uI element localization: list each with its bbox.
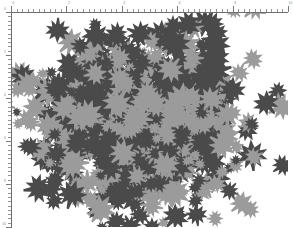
x-minor-tick [138,9,139,12]
y-minor-tick [8,16,11,17]
y-minor-tick [8,214,11,215]
y-minor-tick [8,59,11,60]
x-minor-tick [277,9,278,12]
x-minor-tick [72,9,73,12]
x-minor-tick [17,9,18,12]
x-major-tick [66,6,67,12]
y-minor-tick [8,197,11,198]
y-minor-tick [8,81,11,82]
x-minor-tick [166,9,167,12]
x-minor-tick [210,9,211,12]
y-minor-tick [8,38,11,39]
x-minor-tick [55,9,56,12]
x-minor-tick [50,9,51,12]
y-minor-tick [8,223,11,224]
y-minor-tick [8,29,11,30]
y-minor-tick [8,218,11,219]
x-minor-tick [144,9,145,12]
y-minor-tick [8,158,11,159]
y-minor-tick [8,51,11,52]
y-minor-tick [8,42,11,43]
x-minor-tick [227,9,228,12]
y-minor-tick [8,107,11,108]
x-minor-tick [172,9,173,12]
leaf-marker [287,188,288,202]
x-tick-label: 8 [234,1,236,5]
y-minor-tick [8,89,11,90]
x-major-tick [122,6,123,12]
x-minor-tick [183,9,184,12]
x-minor-tick [199,9,200,12]
y-minor-tick [8,175,11,176]
y-tick-label: 4 [0,93,6,97]
y-minor-tick [8,128,11,129]
y-minor-tick [8,46,11,47]
y-minor-tick [8,111,11,112]
y-minor-tick [8,120,11,121]
y-minor-tick [8,145,11,146]
y-minor-tick [8,201,11,202]
x-minor-tick [44,9,45,12]
x-minor-tick [150,9,151,12]
y-minor-tick [8,171,11,172]
y-minor-tick [8,150,11,151]
x-minor-tick [100,9,101,12]
x-minor-tick [255,9,256,12]
y-minor-tick [8,64,11,65]
leaf-marker [236,13,274,26]
x-minor-tick [89,9,90,12]
y-tick-label: 8 [0,179,6,183]
y-minor-tick [8,206,11,207]
y-minor-tick [8,21,11,22]
x-minor-tick [282,9,283,12]
leaf-marker [267,150,288,181]
y-minor-tick [8,102,11,103]
y-minor-tick [8,210,11,211]
x-minor-tick [260,9,261,12]
y-minor-tick [8,167,11,168]
x-minor-tick [39,9,40,12]
y-minor-tick [8,163,11,164]
x-tick-label: 4 [123,1,125,5]
x-tick-label: 6 [179,1,181,5]
x-minor-tick [155,9,156,12]
y-tick-label: 2 [0,50,6,54]
x-minor-tick [111,9,112,12]
x-major-tick [233,6,234,12]
x-tick-label: 0 [13,1,15,5]
y-minor-tick [8,34,11,35]
y-major-tick [6,227,12,228]
y-minor-tick [8,85,11,86]
x-minor-tick [127,9,128,12]
x-minor-tick [133,9,134,12]
y-minor-tick [8,132,11,133]
y-minor-tick [8,77,11,78]
x-minor-tick [77,9,78,12]
x-minor-tick [61,9,62,12]
leaf-scatter-canvas [12,13,288,227]
x-minor-tick [33,9,34,12]
y-minor-tick [8,94,11,95]
leaf-marker [207,210,224,227]
chart-figure: 0246810 0246810 [0,0,293,228]
x-minor-tick [222,9,223,12]
x-minor-tick [105,9,106,12]
x-minor-tick [161,9,162,12]
y-minor-tick [8,180,11,181]
x-minor-tick [94,9,95,12]
x-minor-tick [194,9,195,12]
x-minor-tick [22,9,23,12]
y-minor-tick [8,137,11,138]
x-minor-tick [205,9,206,12]
x-minor-tick [28,9,29,12]
x-tick-label: 2 [68,1,70,5]
x-tick-label: 10 [289,1,293,5]
x-minor-tick [249,9,250,12]
y-tick-label: 10 [0,222,6,226]
x-minor-tick [116,9,117,12]
y-minor-tick [8,68,11,69]
x-major-tick [177,6,178,12]
y-minor-tick [8,154,11,155]
x-minor-tick [266,9,267,12]
y-minor-tick [8,124,11,125]
